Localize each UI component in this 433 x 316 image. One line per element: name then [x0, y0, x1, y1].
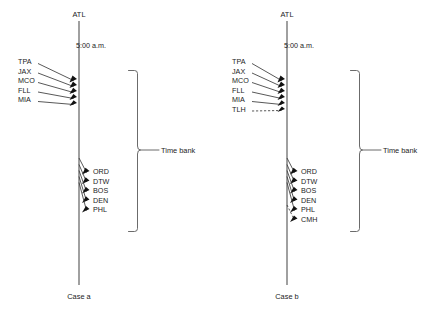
- time-marker-case-a: 5:00 a.m.: [76, 41, 106, 50]
- station-label-outbound: DTW: [301, 177, 318, 186]
- flight-path-inbound: [252, 64, 282, 81]
- station-label-outbound: PHL: [301, 205, 315, 214]
- panel-case-b: ATL 5:00 a.m. TPA JAX: [232, 10, 418, 301]
- flight-path-inbound: [38, 64, 74, 81]
- diagram-canvas: ATL 5:00 a.m. TPA JAX: [0, 0, 433, 316]
- arrow-head-icon: [70, 94, 78, 100]
- flight-path-inbound: [38, 92, 74, 99]
- station-label-outbound: DEN: [93, 196, 108, 205]
- hub-label-case-a: ATL: [72, 10, 85, 19]
- arrow-head-icon: [278, 94, 286, 100]
- time-bank-bracket-case-a: [129, 71, 141, 232]
- station-label-inbound: FLL: [18, 86, 30, 95]
- flight-row-inbound-added: TLH: [232, 105, 285, 114]
- station-label-inbound: MCO: [18, 76, 35, 85]
- panel-case-a: ATL 5:00 a.m. TPA JAX: [18, 10, 196, 301]
- station-label-inbound: MIA: [18, 95, 31, 104]
- station-label-outbound: BOS: [93, 186, 108, 195]
- time-bank-label-case-b: Time bank: [383, 146, 418, 155]
- arrow-head-icon: [70, 82, 78, 89]
- flight-path-inbound: [252, 102, 282, 105]
- station-label-outbound: ORD: [301, 167, 317, 176]
- time-bank-label-case-a: Time bank: [161, 146, 196, 155]
- station-label-outbound: ORD: [93, 167, 109, 176]
- arrow-head-icon: [82, 206, 90, 213]
- flight-path-inbound: [38, 73, 74, 87]
- arrow-head-icon: [278, 100, 286, 106]
- flight-row-inbound: MIA: [18, 95, 77, 106]
- station-label-inbound: FLL: [232, 86, 244, 95]
- arrow-head-icon: [70, 88, 78, 94]
- station-label-outbound: DEN: [301, 196, 316, 205]
- inbound-group-case-a: TPA JAX MCO FLL: [18, 57, 77, 106]
- outbound-group-case-a: ORD DTW BOS DEN: [79, 158, 110, 214]
- station-label-inbound: TPA: [232, 57, 246, 66]
- station-label-outbound: DTW: [93, 177, 110, 186]
- station-label-inbound: JAX: [18, 67, 31, 76]
- arrow-head-icon: [278, 106, 286, 112]
- time-marker-case-b: 5:00 a.m.: [284, 41, 314, 50]
- arrow-head-icon: [290, 206, 298, 213]
- flight-path-inbound: [252, 83, 282, 93]
- inbound-group-case-b: TPA JAX MCO FLL: [232, 57, 285, 114]
- station-label-outbound: CMH: [301, 215, 317, 224]
- flight-row-outbound: ORD: [287, 158, 317, 176]
- station-label-outbound: PHL: [93, 205, 107, 214]
- flight-path-inbound-dashed: [252, 111, 282, 112]
- time-bank-diagram: ATL 5:00 a.m. TPA JAX: [0, 0, 433, 316]
- flight-row-outbound: ORD: [79, 158, 109, 176]
- station-label-inbound: TPA: [18, 57, 32, 66]
- station-label-outbound: BOS: [301, 186, 316, 195]
- case-caption-a: Case a: [67, 292, 91, 301]
- outbound-group-case-b: ORD DTW BOS DEN: [287, 158, 318, 224]
- hub-label-case-b: ATL: [280, 10, 293, 19]
- flight-path-inbound: [38, 83, 74, 93]
- station-label-inbound: MIA: [232, 95, 245, 104]
- arrow-head-icon: [70, 100, 78, 106]
- flight-path-inbound: [252, 73, 282, 87]
- time-bank-bracket-case-b: [351, 71, 363, 232]
- flight-path-inbound: [252, 92, 282, 99]
- case-caption-b: Case b: [275, 292, 298, 301]
- station-label-inbound: TLH: [232, 105, 246, 114]
- arrow-head-icon: [278, 88, 286, 94]
- flight-path-inbound: [38, 102, 74, 105]
- station-label-inbound: MCO: [232, 76, 249, 85]
- arrow-head-icon: [290, 215, 298, 222]
- station-label-inbound: JAX: [232, 67, 245, 76]
